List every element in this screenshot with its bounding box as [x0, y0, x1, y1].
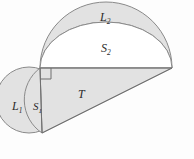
label-lune-small: L1 [12, 100, 22, 112]
figure-caption [0, 146, 194, 159]
label-L2-sub: 2 [107, 17, 111, 26]
label-L1-sub: 1 [19, 106, 23, 115]
label-S1-sub: 1 [39, 107, 42, 114]
label-S2-sub: 2 [107, 48, 111, 57]
label-lune-large: L2 [100, 11, 110, 23]
geometry-svg [0, 0, 194, 159]
label-triangle: T [78, 88, 85, 100]
label-L1-letter: L [12, 99, 19, 113]
label-segment-small: S1 [33, 101, 42, 112]
label-segment-large: S2 [101, 42, 111, 54]
geometry-figure: L1 S1 L2 S2 T [0, 0, 194, 159]
label-S1-letter: S [33, 100, 39, 112]
label-L2-letter: L [100, 10, 107, 24]
